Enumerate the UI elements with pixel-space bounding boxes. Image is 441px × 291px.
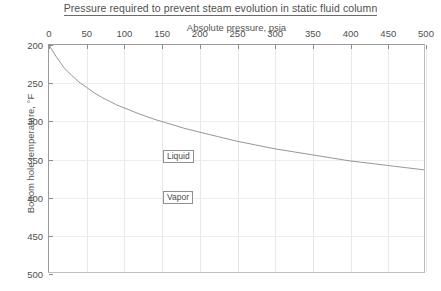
y-tick-label: 200 [19, 40, 43, 51]
x-tick-label: 500 [418, 28, 434, 39]
plot-area: 0501001502002503003504004505002002503003… [48, 44, 425, 273]
region-label-liquid: Liquid [163, 150, 194, 163]
x-tick-label: 350 [305, 28, 321, 39]
y-tick-label: 300 [19, 116, 43, 127]
y-tick-label: 400 [19, 192, 43, 203]
x-tick-label: 150 [154, 28, 170, 39]
saturation-curve-path [49, 45, 424, 170]
y-tick-mark [49, 274, 53, 275]
x-tick-mark [426, 45, 427, 49]
x-tick-label: 200 [192, 28, 208, 39]
x-tick-label: 100 [116, 28, 132, 39]
region-label-vapor: Vapor [163, 191, 193, 204]
x-tick-label: 300 [267, 28, 283, 39]
y-tick-label: 350 [19, 154, 43, 165]
x-tick-label: 400 [343, 28, 359, 39]
data-curve [49, 45, 424, 272]
x-tick-label: 0 [46, 28, 51, 39]
x-tick-label: 250 [230, 28, 246, 39]
y-tick-label: 500 [19, 269, 43, 280]
chart-title-text: Pressure required to prevent steam evolu… [64, 2, 378, 16]
chart-container: Pressure required to prevent steam evolu… [0, 0, 441, 291]
chart-title: Pressure required to prevent steam evolu… [0, 2, 441, 14]
gridline-vertical [426, 45, 427, 272]
x-tick-label: 50 [81, 28, 92, 39]
y-tick-label: 250 [19, 78, 43, 89]
x-tick-label: 450 [380, 28, 396, 39]
y-tick-label: 450 [19, 230, 43, 241]
